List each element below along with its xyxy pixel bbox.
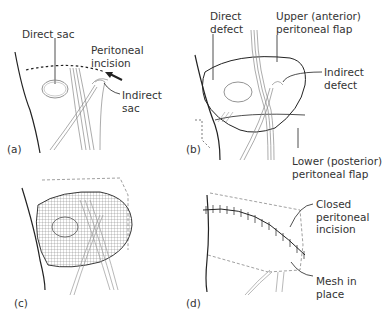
panel-d-drawing [203,193,313,295]
label-closed-incision: Closed peritoneal incision [316,198,369,236]
label-direct-sac: Direct sac [22,28,74,41]
panel-label-d: (d) [186,297,201,309]
label-indirect-sac: Indirect sac [122,89,162,114]
indirect-sac-leader [104,83,120,94]
label-lower-flap: Lower (posterior) peritoneal flap [292,155,382,180]
panel-c-drawing [22,178,132,295]
panel-b-drawing [195,30,322,160]
peritoneal-flap-outline [203,57,306,132]
label-mesh-in-place: Mesh in place [316,275,357,300]
direct-defect-shape [224,82,252,102]
label-indirect-defect: Indirect defect [324,66,364,91]
label-upper-flap: Upper (anterior) peritoneal flap [276,10,361,35]
label-peritoneal-incision: Peritoneal incision [91,44,144,69]
panel-label-b: (b) [186,143,201,155]
label-direct-defect: Direct defect [210,10,243,35]
panel-label-a: (a) [7,143,22,155]
closed-incision-line [203,209,305,255]
panel-label-c: (c) [14,297,28,309]
abdominal-wall-line [15,52,40,153]
